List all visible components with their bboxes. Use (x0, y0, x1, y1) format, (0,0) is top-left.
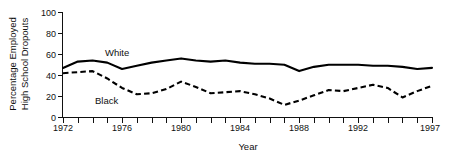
chart-container: Percentage Employed High School Dropouts… (0, 0, 449, 154)
y-tick-label-0: 0 (51, 113, 56, 123)
x-tick-label-1988: 1988 (289, 123, 309, 133)
y-axis-label-line1: Percentage Employed (7, 17, 18, 110)
y-axis-label: Percentage Employed High School Dropouts (7, 17, 30, 110)
y-tick-marks (58, 13, 63, 118)
series-line-black (63, 71, 432, 105)
series-annotation-black: Black (95, 95, 118, 106)
y-tick-label-40: 40 (46, 71, 56, 81)
y-tick-label-80: 80 (46, 29, 56, 39)
x-tick-labels: 1972 1976 1980 1984 1988 1992 1997 (53, 123, 440, 133)
y-axis-label-line2: High School Dropouts (19, 18, 30, 111)
y-tick-label-20: 20 (46, 92, 56, 102)
series-line-white (63, 58, 432, 71)
x-tick-label-1976: 1976 (112, 123, 132, 133)
x-tick-label-1997: 1997 (420, 123, 440, 133)
x-tick-label-1992: 1992 (348, 123, 368, 133)
y-tick-label-100: 100 (41, 8, 56, 18)
y-tick-labels: 100 80 60 40 20 0 (41, 8, 56, 123)
x-tick-marks (64, 118, 433, 123)
y-tick-label-60: 60 (46, 50, 56, 60)
x-axis-label: Year (238, 141, 257, 152)
x-tick-label-1980: 1980 (171, 123, 191, 133)
line-chart: Percentage Employed High School Dropouts… (0, 0, 449, 154)
x-tick-label-1972: 1972 (53, 123, 73, 133)
x-tick-label-1984: 1984 (230, 123, 250, 133)
series-annotation-white: White (105, 47, 129, 58)
